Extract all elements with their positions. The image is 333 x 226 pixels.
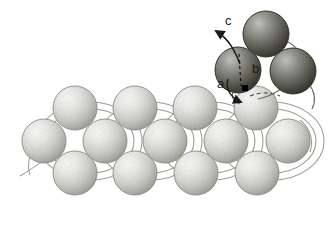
- label-vector-b: b: [252, 62, 259, 75]
- substrate-sphere: [204, 119, 248, 163]
- adcluster-bond-right-edge: [309, 84, 314, 109]
- substrate-sphere: [143, 119, 187, 163]
- substrate-sphere: [266, 119, 310, 163]
- substrate-sphere: [53, 86, 97, 130]
- substrate-sphere: [83, 119, 127, 163]
- substrate-sphere: [22, 119, 66, 163]
- molecular-diagram-svg: [0, 0, 333, 226]
- substrate-sphere: [113, 86, 157, 130]
- label-vector-c: c: [225, 14, 232, 27]
- substrate-sphere: [235, 151, 279, 195]
- adatom-sphere-right: [270, 48, 316, 94]
- substrate-sphere: [173, 86, 217, 130]
- label-vector-a: a: [217, 77, 224, 90]
- site-marker-square: [242, 85, 248, 91]
- figure-canvas: c b a: [0, 0, 333, 226]
